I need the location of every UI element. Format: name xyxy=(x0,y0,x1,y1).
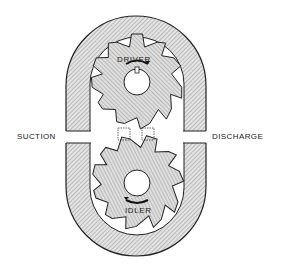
driver-label: DRIVER xyxy=(117,55,151,64)
idler-label: IDLER xyxy=(125,206,152,215)
suction-label: SUCTION xyxy=(17,132,56,141)
suction-port xyxy=(65,131,91,143)
discharge-port xyxy=(183,131,207,143)
keyway-icon xyxy=(135,67,139,73)
discharge-label: DISCHARGE xyxy=(212,132,263,141)
